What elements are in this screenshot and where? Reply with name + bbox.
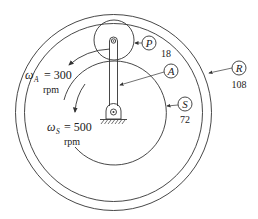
- sun-speed-label: ω S = 500 rpm: [47, 120, 92, 147]
- svg-text:R: R: [235, 62, 243, 74]
- arm-label-bubble: A: [164, 64, 178, 78]
- arm-speed-label: ω A = 300 rpm: [25, 68, 72, 95]
- svg-text:18: 18: [161, 48, 171, 59]
- svg-text:S: S: [56, 127, 60, 136]
- planet-gear: [94, 20, 134, 60]
- svg-text:= 500: = 500: [64, 120, 92, 134]
- svg-text:ω: ω: [25, 68, 33, 82]
- svg-text:rpm: rpm: [43, 84, 59, 95]
- svg-text:P: P: [145, 37, 153, 49]
- svg-text:108: 108: [232, 79, 247, 90]
- ring-label-bubble: R 108: [232, 61, 247, 90]
- svg-text:A: A: [33, 75, 39, 84]
- svg-text:rpm: rpm: [64, 136, 80, 147]
- svg-text:A: A: [167, 65, 175, 77]
- sun-label-bubble: S 72: [178, 97, 192, 125]
- svg-text:= 300: = 300: [44, 68, 72, 82]
- planet-label-bubble: P 18: [142, 36, 171, 59]
- sun-gear: [64, 61, 166, 165]
- ground-pivot: [100, 104, 127, 124]
- arm-link: [110, 37, 118, 106]
- planetary-gear-diagram: ω A = 300 rpm ω S = 500 rpm P 18 A: [0, 0, 258, 219]
- svg-text:S: S: [182, 98, 188, 110]
- sun-rotation-arrow: [75, 84, 85, 112]
- svg-text:72: 72: [180, 114, 190, 125]
- svg-text:ω: ω: [47, 120, 55, 134]
